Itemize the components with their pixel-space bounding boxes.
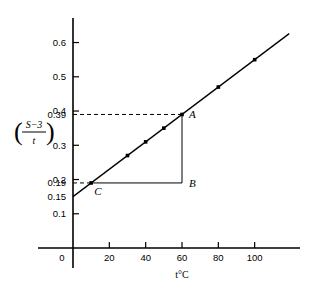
x-tick-label: 80 — [213, 252, 224, 263]
annotation-label-b: B — [189, 177, 196, 189]
y-tick-label: 0.3 — [53, 140, 66, 151]
x-tick-label: 20 — [104, 252, 115, 263]
chart-figure: 0.10.20.30.40.50.60.390.190.15 020406080… — [0, 0, 317, 291]
data-point-marker — [89, 181, 93, 185]
x-tick-label: 60 — [177, 252, 188, 263]
point-annotations: ABC — [94, 108, 196, 196]
y-axis-title-close-paren: ) — [46, 117, 55, 146]
data-point-marker — [144, 140, 148, 144]
data-point-marker — [253, 58, 257, 62]
y-axis-title: ( S−3 t ) — [14, 117, 55, 146]
y-extra-label: 0.15 — [48, 191, 67, 202]
y-tick-label: 0.6 — [53, 37, 66, 48]
data-point-marker — [180, 113, 184, 117]
data-point-marker — [162, 126, 166, 130]
annotation-label-a: A — [188, 108, 196, 120]
y-axis-title-numerator: S−3 — [26, 119, 43, 130]
y-axis-title-denominator: t — [33, 135, 36, 146]
line-chart-svg: 0.10.20.30.40.50.60.390.190.15 020406080… — [0, 0, 317, 291]
y-tick-label: 0.1 — [53, 208, 66, 219]
x-tick-label: 0 — [59, 252, 64, 263]
x-axis-ticks: 020406080100 — [59, 242, 262, 263]
construction-dashed-lines — [73, 114, 182, 182]
data-point-marker — [217, 85, 221, 89]
x-axis-title: t°C — [175, 269, 189, 280]
y-extra-label: 0.19 — [48, 177, 67, 188]
annotation-label-c: C — [94, 185, 102, 197]
data-point-marker — [126, 154, 130, 158]
x-tick-label: 40 — [140, 252, 151, 263]
x-tick-label: 100 — [247, 252, 263, 263]
y-tick-label: 0.5 — [53, 71, 66, 82]
y-axis-title-open-paren: ( — [14, 117, 23, 146]
